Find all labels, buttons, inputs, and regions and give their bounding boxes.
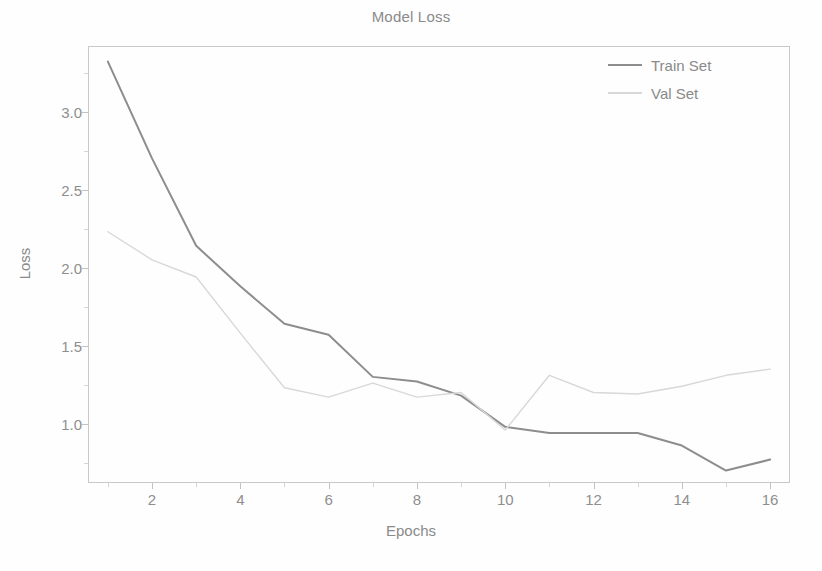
x-tick-label: 10 [497, 491, 514, 508]
legend-item[interactable]: Val Set [608, 82, 780, 104]
x-axis-title: Epochs [0, 522, 822, 539]
x-minor-tick [461, 483, 462, 487]
x-tick-mark [505, 483, 506, 489]
x-minor-tick [638, 483, 639, 487]
x-tick-label: 14 [673, 491, 690, 508]
y-tick-label: 1.0 [38, 415, 82, 432]
x-tick-label: 12 [585, 491, 602, 508]
x-tick-label: 6 [324, 491, 332, 508]
y-minor-tick [84, 385, 88, 386]
x-tick-mark [240, 483, 241, 489]
y-minor-tick [84, 151, 88, 152]
legend-item-label: Train Set [651, 58, 711, 73]
x-minor-tick [284, 483, 285, 487]
x-minor-tick [196, 483, 197, 487]
chart-legend: Train SetVal Set [608, 54, 780, 104]
y-tick-mark [82, 112, 88, 113]
y-tick-mark [82, 268, 88, 269]
series-line-train-set [108, 62, 770, 471]
y-minor-tick [84, 463, 88, 464]
x-minor-tick [108, 483, 109, 487]
y-tick-label: 1.5 [38, 337, 82, 354]
y-minor-tick [84, 229, 88, 230]
series-line-val-set [108, 232, 770, 430]
y-tick-mark [82, 190, 88, 191]
x-tick-label: 2 [148, 491, 156, 508]
y-minor-tick [84, 73, 88, 74]
x-tick-mark [152, 483, 153, 489]
y-minor-tick [84, 307, 88, 308]
chart-figure: Model Loss 1.01.52.02.53.0 246810121416 … [0, 0, 822, 571]
x-tick-label: 16 [762, 491, 779, 508]
y-axis-title: Loss [16, 224, 33, 304]
legend-item-label: Val Set [651, 86, 698, 101]
x-minor-tick [373, 483, 374, 487]
x-tick-mark [770, 483, 771, 489]
y-tick-mark [82, 424, 88, 425]
legend-line-swatch-icon [608, 92, 642, 93]
y-tick-label: 2.5 [38, 181, 82, 198]
legend-item[interactable]: Train Set [608, 54, 780, 76]
x-tick-mark [682, 483, 683, 489]
x-tick-mark [417, 483, 418, 489]
y-tick-mark [82, 346, 88, 347]
x-minor-tick [726, 483, 727, 487]
x-tick-label: 8 [413, 491, 421, 508]
x-tick-mark [329, 483, 330, 489]
y-tick-label: 2.0 [38, 259, 82, 276]
y-tick-label: 3.0 [38, 103, 82, 120]
x-tick-mark [594, 483, 595, 489]
x-minor-tick [549, 483, 550, 487]
x-tick-label: 4 [236, 491, 244, 508]
legend-line-swatch-icon [608, 64, 642, 66]
